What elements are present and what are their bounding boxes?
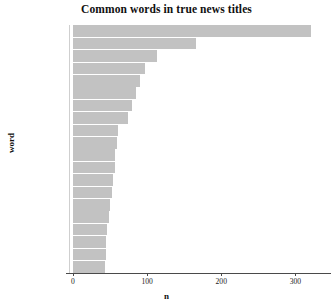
- bar-due: [73, 87, 136, 99]
- bar-row: [73, 236, 331, 248]
- bar-row: [73, 112, 331, 124]
- bar-row: [73, 199, 331, 211]
- bar-infected: [73, 211, 109, 223]
- bar-row: [73, 224, 331, 236]
- x-tick-mark: [295, 273, 296, 276]
- x-tick-mark: [147, 273, 148, 276]
- y-axis-line: [69, 25, 70, 274]
- bar-china: [73, 25, 311, 37]
- bar-death: [73, 137, 117, 149]
- x-tick-label-0: 0: [53, 277, 93, 286]
- bar-row: [73, 38, 331, 50]
- bar-row: [73, 87, 331, 99]
- bar-confirmed: [73, 187, 112, 199]
- bar-row: [73, 75, 331, 87]
- x-tick-label-200: 200: [201, 277, 241, 286]
- bar-health: [73, 50, 157, 62]
- bar-spread: [73, 125, 118, 137]
- bar-row: [73, 25, 331, 37]
- x-tick-mark: [221, 273, 222, 276]
- bar-row: [73, 149, 331, 161]
- bar-row: [73, 162, 331, 174]
- bar-row: [73, 187, 331, 199]
- chart-figure: Common words in true news titles word n …: [0, 0, 333, 308]
- bar-doh: [73, 261, 105, 273]
- bar-people: [73, 112, 128, 124]
- bar-row: [73, 100, 331, 112]
- bar-threat: [73, 162, 115, 174]
- bar-row: [73, 261, 331, 273]
- bar-row: [73, 125, 331, 137]
- bar-row: [73, 50, 331, 62]
- bar-row: [73, 211, 331, 223]
- bar-beer: [73, 63, 145, 75]
- y-axis-title: word: [6, 123, 16, 163]
- bar-global: [73, 224, 107, 236]
- bar-hospital: [73, 236, 106, 248]
- bar-row: [73, 174, 331, 186]
- x-axis-title: n: [0, 291, 333, 301]
- x-tick-mark: [73, 273, 74, 276]
- x-tick-label-300: 300: [275, 277, 315, 286]
- chart-title: Common words in true news titles: [0, 3, 333, 15]
- bar-row: [73, 63, 331, 75]
- bar-wuhan: [73, 75, 140, 87]
- bar-emergency: [73, 199, 110, 211]
- bar-toll: [73, 174, 113, 186]
- plot-panel: [73, 25, 331, 273]
- x-axis-line: [66, 273, 331, 274]
- bar-amid: [73, 149, 115, 161]
- bar-outbreak: [73, 38, 196, 50]
- bar-row: [73, 137, 331, 149]
- bar-chinese: [73, 100, 132, 112]
- bar-row: [73, 249, 331, 261]
- x-tick-label-100: 100: [127, 277, 167, 286]
- bar-news: [73, 249, 106, 261]
